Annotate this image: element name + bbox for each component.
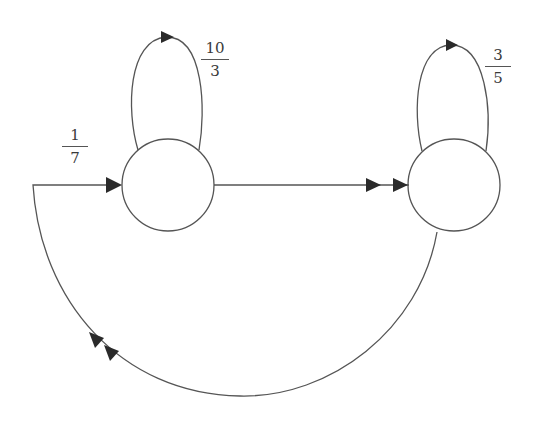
arrowhead-icon — [104, 345, 119, 361]
arrowhead-icon — [89, 332, 104, 348]
left-self-loop-edge — [131, 37, 202, 150]
return-edge-numerator: 1 — [62, 128, 88, 146]
left-loop-numerator: 10 — [201, 41, 229, 59]
right-self-loop-edge — [417, 45, 488, 151]
arrowhead-icon — [106, 177, 122, 193]
return-edge-denominator: 7 — [62, 147, 88, 166]
left-loop-rate-label: 10 3 — [201, 41, 229, 79]
right-loop-rate-label: 3 5 — [485, 48, 511, 86]
right-to-left-return-edge — [33, 185, 437, 396]
return-edge-rate-label: 1 7 — [62, 128, 88, 166]
arrowhead-icon — [366, 178, 381, 192]
right-loop-denominator: 5 — [485, 67, 511, 86]
arrowhead-icon — [161, 31, 174, 43]
right-state-node[interactable] — [408, 139, 500, 231]
right-loop-numerator: 3 — [485, 48, 511, 66]
left-state-node[interactable] — [122, 139, 214, 231]
arrowhead-icon — [393, 178, 408, 192]
state-diagram — [0, 0, 544, 427]
arrowhead-icon — [446, 39, 458, 51]
left-loop-denominator: 3 — [201, 60, 229, 79]
